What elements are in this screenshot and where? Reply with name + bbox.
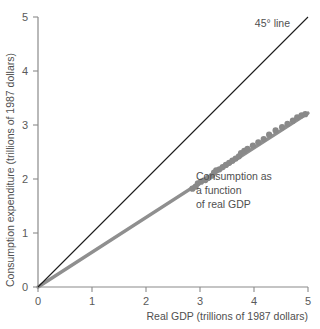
annotation-consumption-line-3: of real GDP [196,198,251,210]
forty-five-degree-line [38,17,308,287]
scatter-point [244,146,250,152]
x-tick-label-2: 2 [143,295,149,307]
scatter-point [302,111,308,117]
scatter-point [284,121,290,127]
x-tick-label-1: 1 [89,295,95,307]
scatter-point [255,139,261,145]
x-tick-label-3: 3 [197,295,203,307]
scatter-point [266,132,272,138]
scatter-point [261,136,267,142]
y-axis-title: Consumption expenditure (trillions of 19… [4,53,16,287]
scatter-point [250,142,256,148]
reference-45-line [38,17,308,287]
annotation-consumption-line-2: a function [196,184,242,196]
scatter-point [279,124,285,130]
x-tick-label-5: 5 [305,295,311,307]
consumption-function-line [38,113,308,287]
y-tick-label-1: 1 [22,227,28,239]
y-tick-label-3: 3 [22,119,28,131]
annotation-consumption-line-1: Consumption as [196,170,272,182]
annotation-45-degree-line: 45° line [255,17,290,29]
chart-canvas: 0 1 2 3 4 5 0 1 2 3 4 5 Real GDP (trilli… [0,0,320,329]
scatter-point [273,127,279,133]
consumption-function-chart: 0 1 2 3 4 5 0 1 2 3 4 5 Real GDP (trilli… [0,0,320,329]
consumption-trend-line [38,113,308,287]
x-tick-label-0: 0 [35,295,41,307]
y-tick-label-2: 2 [22,173,28,185]
y-tick-label-5: 5 [22,11,28,23]
y-tick-label-4: 4 [22,65,28,77]
y-tick-label-0: 0 [22,281,28,293]
x-axis-title: Real GDP (trillions of 1987 dollars) [147,310,308,322]
x-tick-label-4: 4 [251,295,257,307]
